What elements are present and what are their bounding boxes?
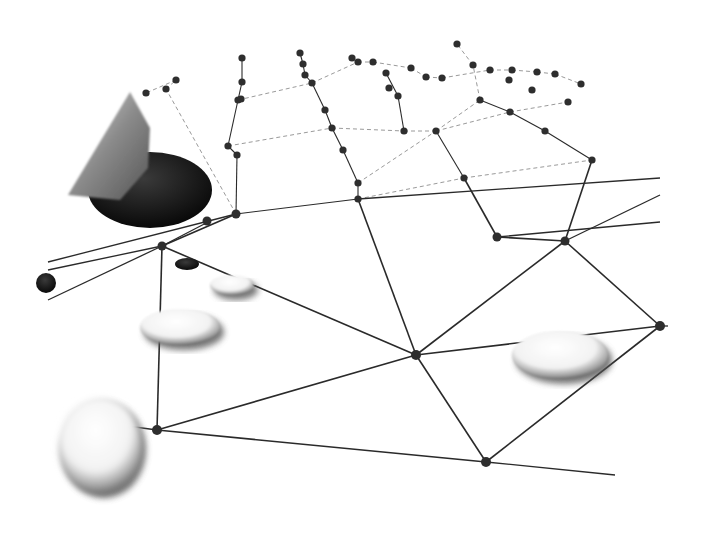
graph-board bbox=[0, 0, 708, 538]
go-graph-scene bbox=[0, 0, 708, 538]
faint-graph-edges bbox=[146, 44, 592, 214]
graph-nodes bbox=[142, 40, 665, 467]
